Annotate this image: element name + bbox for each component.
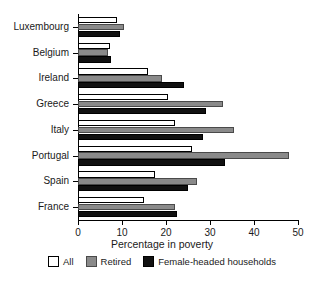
x-axis-tick xyxy=(78,220,79,225)
bar-row xyxy=(78,197,298,203)
x-axis-tick-label: 30 xyxy=(195,227,225,238)
bar-row xyxy=(78,185,298,191)
legend-swatch-icon xyxy=(143,256,154,267)
bar-row xyxy=(78,171,298,177)
x-axis-tick xyxy=(122,220,123,225)
bar xyxy=(78,171,155,177)
bar-row xyxy=(78,211,298,217)
y-axis-tick xyxy=(73,207,78,208)
x-axis-line xyxy=(78,220,298,221)
bar-row xyxy=(78,152,298,158)
legend-label: All xyxy=(63,256,74,267)
legend-item: Retired xyxy=(86,256,132,267)
bar xyxy=(78,211,177,217)
bar-row xyxy=(78,204,298,210)
bar-row xyxy=(78,17,298,23)
bar xyxy=(78,204,175,210)
legend-swatch-icon xyxy=(48,256,59,267)
bar xyxy=(78,82,184,88)
x-axis-tick-label: 20 xyxy=(151,227,181,238)
bar xyxy=(78,178,197,184)
x-axis-tick xyxy=(254,220,255,225)
x-axis-tick-label: 10 xyxy=(107,227,137,238)
bar-row xyxy=(78,94,298,100)
legend-swatch-icon xyxy=(86,256,97,267)
bar xyxy=(78,159,225,165)
x-axis-title: Percentage in poverty xyxy=(0,238,324,250)
bar xyxy=(78,49,108,55)
legend-label: Retired xyxy=(101,256,132,267)
x-axis-tick xyxy=(166,220,167,225)
y-axis-label: Ireland xyxy=(38,73,69,83)
bar xyxy=(78,101,223,107)
bar-row xyxy=(78,178,298,184)
bar-row xyxy=(78,68,298,74)
bar-row xyxy=(78,24,298,30)
y-axis-tick xyxy=(73,130,78,131)
y-axis-tick xyxy=(73,78,78,79)
y-axis-tick xyxy=(73,156,78,157)
bar xyxy=(78,31,120,37)
bar-row xyxy=(78,43,298,49)
bar-row xyxy=(78,82,298,88)
chart-legend: AllRetiredFemale-headed households xyxy=(0,256,324,267)
bar-row xyxy=(78,134,298,140)
bar xyxy=(78,152,289,158)
y-axis-label: France xyxy=(38,202,69,212)
legend-item: All xyxy=(48,256,74,267)
y-axis-label: Italy xyxy=(51,125,69,135)
x-axis-tick xyxy=(298,220,299,225)
y-axis-tick xyxy=(73,104,78,105)
x-axis-tick xyxy=(210,220,211,225)
x-axis-tick-label: 50 xyxy=(283,227,313,238)
bar-row xyxy=(78,31,298,37)
bar xyxy=(78,185,188,191)
poverty-bar-chart: LuxembourgBelgiumIrelandGreeceItalyPortu… xyxy=(0,0,324,283)
y-axis-label: Portugal xyxy=(32,151,69,161)
bar-row xyxy=(78,101,298,107)
y-axis-label: Luxembourg xyxy=(13,22,69,32)
bar-row xyxy=(78,146,298,152)
x-axis-tick-label: 0 xyxy=(63,227,93,238)
bar xyxy=(78,94,168,100)
x-axis-tick-label: 40 xyxy=(239,227,269,238)
bar-row xyxy=(78,56,298,62)
legend-label: Female-headed households xyxy=(158,256,276,267)
bar xyxy=(78,75,162,81)
bar xyxy=(78,17,117,23)
y-axis-tick xyxy=(73,181,78,182)
bar xyxy=(78,56,111,62)
bar xyxy=(78,146,192,152)
bar xyxy=(78,68,148,74)
y-axis-label: Greece xyxy=(36,99,69,109)
y-axis-label: Belgium xyxy=(33,48,69,58)
bar-group xyxy=(0,117,324,143)
legend-item: Female-headed households xyxy=(143,256,276,267)
bar xyxy=(78,134,203,140)
bar xyxy=(78,108,206,114)
bar-row xyxy=(78,120,298,126)
bar-row xyxy=(78,127,298,133)
bar-row xyxy=(78,108,298,114)
bar-row xyxy=(78,75,298,81)
bar xyxy=(78,24,124,30)
bar xyxy=(78,127,234,133)
bar-row xyxy=(78,159,298,165)
bar xyxy=(78,120,175,126)
bar-row xyxy=(78,49,298,55)
y-axis-tick xyxy=(73,27,78,28)
bar xyxy=(78,197,144,203)
y-axis-tick xyxy=(73,53,78,54)
bar xyxy=(78,43,110,49)
y-axis-label: Spain xyxy=(43,176,69,186)
